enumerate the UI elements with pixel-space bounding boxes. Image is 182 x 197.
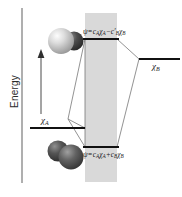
chi-b-subscript: B [121, 153, 124, 159]
psi-symbol: ψ [83, 150, 88, 159]
psi-symbol: ψ [83, 27, 88, 36]
antibonding-orbital-lobes [48, 28, 84, 54]
chi-b-label: χB [152, 62, 160, 72]
chi-a-label: χA [41, 116, 49, 126]
antibonding-wavefunction-label: ψ=cAχA−c′BχB [83, 28, 125, 36]
energy-axis-label: Energy [9, 62, 20, 122]
up-arrow-icon [38, 49, 45, 114]
chi-a-label-subscript: A [45, 120, 49, 126]
chi-b-subscript: B [122, 30, 125, 36]
mo-energy-diagram: Energy ψ=cAχA−c′BχB ψ=cAχA+cBχB χA χB [0, 0, 182, 197]
bonding-orbital-lobes [48, 141, 84, 170]
bonding-wavefunction-label: ψ=cAχA+cBχB [83, 151, 124, 159]
chi-b-label-subscript: B [156, 66, 160, 72]
